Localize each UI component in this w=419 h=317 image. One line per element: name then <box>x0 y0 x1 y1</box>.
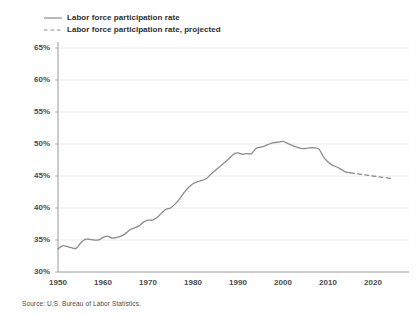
x-axis-tick-label: 2000 <box>263 279 303 287</box>
y-axis-tick-label: 60% <box>22 76 50 84</box>
x-axis-tick-label: 2020 <box>353 279 393 287</box>
y-axis-tick-label: 40% <box>22 204 50 212</box>
x-axis-tick-label: 1990 <box>218 279 258 287</box>
x-axis-tick-label: 2010 <box>308 279 348 287</box>
y-axis-tick-label: 65% <box>22 44 50 52</box>
y-axis-tick-label: 55% <box>22 108 50 116</box>
x-axis-tick-label: 1960 <box>83 279 123 287</box>
x-axis-tick-label: 1980 <box>173 279 213 287</box>
y-axis-tick-label: 30% <box>22 268 50 276</box>
y-axis-tick-label: 50% <box>22 140 50 148</box>
y-axis-tick-label: 45% <box>22 172 50 180</box>
source-note: Source: U.S. Bureau of Labor Statistics. <box>22 300 141 307</box>
x-axis-tick-label: 1950 <box>38 279 78 287</box>
x-axis-tick-label: 1970 <box>128 279 168 287</box>
plot-area <box>0 0 419 317</box>
gridlines <box>58 48 409 240</box>
chart-figure: Labor force participation rate Labor for… <box>0 0 419 317</box>
line-series-observed <box>58 141 351 249</box>
y-axis-tick-label: 35% <box>22 236 50 244</box>
